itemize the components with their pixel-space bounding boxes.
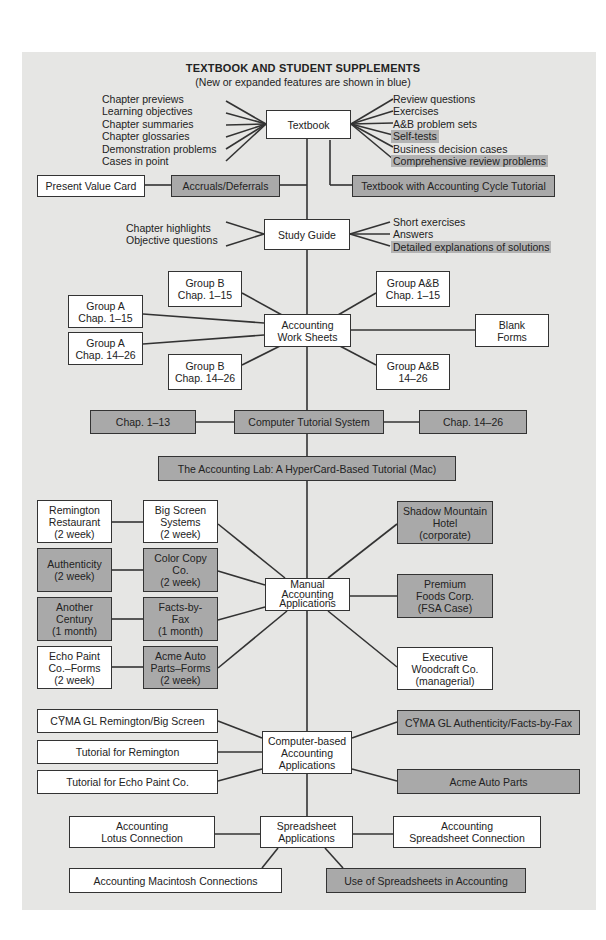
manual-accounting-applications-box[interactable]: Manual Accounting Applications [265,578,350,611]
feature-item: Cases in point [102,155,216,167]
textbook-left-features: Chapter previews Learning objectives Cha… [102,93,216,167]
cyma-authenticity-box[interactable]: CY̅MA GL Authenticity/Facts-by-Fax [397,710,580,735]
spreadsheet-applications-box[interactable]: Spreadsheet Applications [260,816,353,848]
box-label: Accounting Work Sheets [278,319,338,343]
feature-item-new: Detailed explanations of solutions [391,241,551,253]
box-label: Use of Spreadsheets in Accounting [344,875,507,887]
acme-auto-parts-box[interactable]: Acme Auto Parts [397,769,580,794]
box-label: Acme Auto Parts [449,776,527,788]
box-label: Group B Chap. 1–15 [178,277,232,301]
executive-woodcraft-box[interactable]: Executive Woodcraft Co. (managerial) [397,647,493,690]
feature-item-new: Self-tests [391,130,439,142]
box-label: Group A Chap. 14–26 [75,337,135,361]
box-label: Spreadsheet Applications [277,820,337,844]
feature-item: Exercises [393,105,548,117]
tutorial-echo-paint-box[interactable]: Tutorial for Echo Paint Co. [37,770,218,794]
another-century-box[interactable]: Another Century (1 month) [37,597,112,641]
lotus-connection-box[interactable]: Accounting Lotus Connection [69,816,215,848]
cycle-tutorial-box[interactable]: Textbook with Accounting Cycle Tutorial [352,175,555,197]
box-label: Group A&B Chap. 1–15 [386,277,440,301]
box-label: Present Value Card [46,180,137,192]
feature-item: Learning objectives [102,105,216,117]
tutorial-remington-box[interactable]: Tutorial for Remington [37,740,218,764]
group-a-1-15-box[interactable]: Group A Chap. 1–15 [68,295,143,328]
authenticity-box[interactable]: Authenticity (2 week) [37,548,112,592]
box-label: Computer-based Accounting Applications [268,735,346,771]
textbook-box[interactable]: Textbook [266,110,351,139]
cyma-remington-box[interactable]: CY̅MA GL Remington/Big Screen [37,709,218,733]
feature-item: A&B problem sets [393,118,548,130]
present-value-card-box[interactable]: Present Value Card [37,175,145,197]
work-sheets-box[interactable]: Accounting Work Sheets [264,314,351,347]
box-label: Echo Paint Co.–Forms (2 week) [49,650,101,686]
box-label: Computer Tutorial System [248,416,369,428]
study-guide-left-features: Chapter highlights Objective questions [126,222,218,247]
box-label: Blank Forms [497,319,527,343]
textbook-label: Textbook [287,119,329,131]
box-label: CY̅MA GL Authenticity/Facts-by-Fax [405,717,572,729]
box-label: The Accounting Lab: A HyperCard-Based Tu… [178,463,437,475]
box-label: Accruals/Deferrals [183,180,269,192]
feature-item: Business decision cases [393,143,548,155]
feature-item: Chapter summaries [102,118,216,130]
box-label: Authenticity (2 week) [47,558,101,582]
blank-forms-box[interactable]: Blank Forms [475,314,549,347]
spreadsheet-connection-box[interactable]: Accounting Spreadsheet Connection [393,816,541,848]
textbook-right-features: Review questions Exercises A&B problem s… [393,93,548,167]
box-label: Remington Restaurant (2 week) [49,504,100,540]
study-guide-right-features: Short exercises Answers Detailed explana… [393,216,551,253]
feature-item-new: Comprehensive review problems [391,155,548,167]
premium-foods-box[interactable]: Premium Foods Corp. (FSA Case) [397,574,493,618]
feature-item: Demonstration problems [102,143,216,155]
box-label: Another Century (1 month) [52,601,97,637]
use-of-spreadsheets-box[interactable]: Use of Spreadsheets in Accounting [326,868,526,893]
box-label: Chap. 1–13 [116,416,170,428]
group-ab-14-26-box[interactable]: Group A&B 14–26 [376,354,450,390]
big-screen-systems-box[interactable]: Big Screen Systems (2 week) [143,500,218,543]
color-copy-box[interactable]: Color Copy Co. (2 week) [143,548,218,592]
computer-based-applications-box[interactable]: Computer-based Accounting Applications [262,731,352,774]
box-label: Executive Woodcraft Co. (managerial) [412,651,479,687]
box-label: CY̅MA GL Remington/Big Screen [50,715,204,727]
macintosh-connections-box[interactable]: Accounting Macintosh Connections [69,868,282,893]
box-label: Tutorial for Remington [76,746,180,758]
chap-1-13-box[interactable]: Chap. 1–13 [90,410,196,434]
box-label: Textbook with Accounting Cycle Tutorial [361,180,545,192]
remington-restaurant-box[interactable]: Remington Restaurant (2 week) [37,500,112,543]
group-b-14-26-box[interactable]: Group B Chap. 14–26 [168,354,242,390]
study-guide-box[interactable]: Study Guide [264,219,350,250]
box-label: Study Guide [278,229,336,241]
box-label: Chap. 14–26 [443,416,503,428]
box-label: Color Copy Co. (2 week) [154,552,207,588]
group-ab-1-15-box[interactable]: Group A&B Chap. 1–15 [376,271,450,307]
box-label: Accounting Lotus Connection [101,820,183,844]
feature-item: Objective questions [126,234,218,246]
chap-14-26-box[interactable]: Chap. 14–26 [419,410,527,434]
feature-item: Chapter previews [102,93,216,105]
box-label: Shadow Mountain Hotel (corporate) [403,505,487,541]
box-label: Facts-by- Fax (1 month) [158,601,203,637]
feature-item: Chapter glossaries [102,130,216,142]
group-a-14-26-box[interactable]: Group A Chap. 14–26 [68,332,143,365]
accruals-deferrals-box[interactable]: Accruals/Deferrals [171,175,280,197]
box-label: Tutorial for Echo Paint Co. [66,776,189,788]
box-label: Group A Chap. 1–15 [78,300,132,324]
feature-item: Chapter highlights [126,222,218,234]
echo-paint-forms-box[interactable]: Echo Paint Co.–Forms (2 week) [37,646,112,689]
feature-item: Review questions [393,93,548,105]
box-label: Accounting Macintosh Connections [93,875,257,887]
shadow-mountain-box[interactable]: Shadow Mountain Hotel (corporate) [397,501,493,544]
computer-tutorial-system-box[interactable]: Computer Tutorial System [234,410,384,434]
group-b-1-15-box[interactable]: Group B Chap. 1–15 [168,271,242,307]
acme-auto-forms-box[interactable]: Acme Auto Parts–Forms (2 week) [143,646,218,689]
box-label: Group B Chap. 14–26 [175,360,235,384]
facts-by-fax-box[interactable]: Facts-by- Fax (1 month) [143,597,218,641]
box-label: Accounting Spreadsheet Connection [409,820,525,844]
accounting-lab-box[interactable]: The Accounting Lab: A HyperCard-Based Tu… [158,456,456,481]
box-label: Premium Foods Corp. (FSA Case) [416,578,474,614]
diagram-title: TEXTBOOK AND STUDENT SUPPLEMENTS [0,62,606,74]
box-label: Manual Accounting Applications [279,580,336,609]
box-label: Big Screen Systems (2 week) [155,504,206,540]
diagram-subtitle: (New or expanded features are shown in b… [0,76,606,88]
feature-item: Answers [393,228,551,240]
